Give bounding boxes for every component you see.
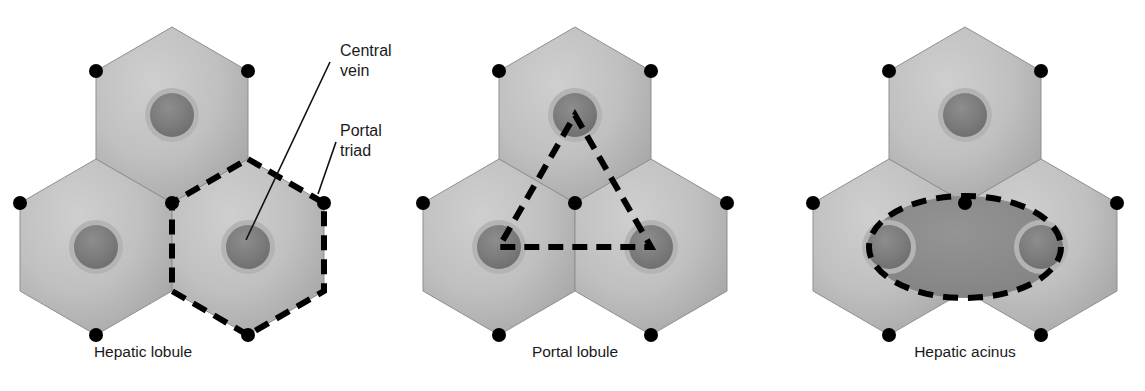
portal-triad-dot (568, 196, 582, 210)
central-vein (150, 93, 194, 137)
portal-triad-dot (241, 328, 255, 342)
panel-caption-hepatic-acinus: Hepatic acinus (914, 343, 1016, 360)
portal-triad-dot (1034, 328, 1048, 342)
central-vein (226, 225, 270, 269)
portal-triad-dot (958, 196, 972, 210)
portal-triad-dot (1034, 64, 1048, 78)
portal-triad-dot (644, 64, 658, 78)
portal-triad-dot (13, 196, 27, 210)
liver-units-figure: Central vein Portal triad Hepatic lobule (0, 0, 1145, 391)
panel-caption-hepatic-lobule: Hepatic lobule (94, 343, 192, 360)
portal-triad-dot (644, 328, 658, 342)
central-vein-label-line2: vein (340, 62, 369, 79)
portal-triad-dot (317, 196, 331, 210)
central-vein (74, 225, 118, 269)
portal-triad-dot (882, 328, 896, 342)
central-vein-label-line1: Central (340, 42, 392, 59)
central-vein (943, 93, 987, 137)
portal-triad-label-line2: triad (340, 142, 371, 159)
portal-triad-dot (806, 196, 820, 210)
portal-triad-dot (89, 64, 103, 78)
portal-triad-dot (882, 64, 896, 78)
portal-triad-dot (241, 64, 255, 78)
portal-triad-dot (492, 328, 506, 342)
portal-triad-label-line1: Portal (340, 122, 382, 139)
portal-triad-dot (1110, 196, 1124, 210)
portal-triad-dot (89, 328, 103, 342)
panel-caption-portal-lobule: Portal lobule (532, 343, 618, 360)
figure-canvas: Central vein Portal triad Hepatic lobule (0, 0, 1145, 391)
portal-triad-dot (492, 64, 506, 78)
portal-triad-dot (165, 196, 179, 210)
portal-triad-dot (416, 196, 430, 210)
portal-triad-dot (720, 196, 734, 210)
